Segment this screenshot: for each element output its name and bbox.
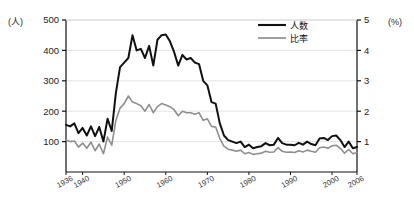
y-axis-left-unit-label: (人) (8, 17, 23, 27)
y-axis-right-tick-label: 2 (364, 106, 369, 117)
chart-background (0, 0, 414, 206)
population-ratio-line-chart: 100200300400500 12345 193619401950196019… (0, 0, 414, 206)
y-axis-left-tick-label: 100 (43, 136, 59, 147)
chart-container: 100200300400500 12345 193619401950196019… (0, 0, 414, 206)
y-axis-left-tick-label: 400 (43, 45, 59, 56)
y-axis-left-tick-label: 300 (43, 75, 59, 86)
y-axis-right-tick-label: 1 (364, 136, 369, 147)
y-axis-right-tick-label: 5 (364, 14, 369, 25)
y-axis-right-tick-label: 4 (364, 45, 369, 56)
legend-label-0: 人数 (290, 20, 308, 31)
y-axis-left-tick-label: 200 (43, 106, 59, 117)
y-axis-left-tick-label: 500 (43, 14, 59, 25)
y-axis-right-tick-label: 3 (364, 75, 369, 86)
y-axis-right-unit-label: (%) (388, 17, 402, 27)
legend-label-1: 比率 (290, 33, 308, 44)
